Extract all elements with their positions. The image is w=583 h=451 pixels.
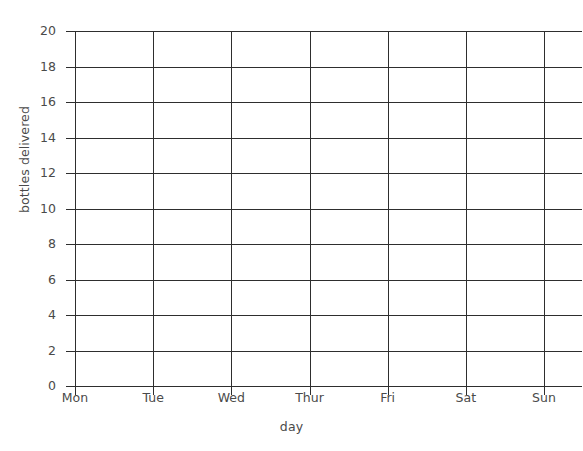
gridline-vertical <box>466 31 467 395</box>
gridline-horizontal <box>66 209 582 210</box>
gridline-vertical <box>231 31 232 395</box>
gridline-vertical <box>153 31 154 395</box>
gridline-horizontal <box>66 102 582 103</box>
chart-container: bottles delivered day 02468101214161820 … <box>0 0 583 451</box>
gridline-horizontal <box>66 386 582 387</box>
gridline-horizontal <box>66 67 582 68</box>
gridline-horizontal <box>66 138 582 139</box>
gridline-horizontal <box>66 244 582 245</box>
gridline-vertical <box>75 31 76 395</box>
gridline-vertical <box>310 31 311 395</box>
gridline-vertical <box>388 31 389 395</box>
gridline-vertical <box>544 31 545 395</box>
gridline-horizontal <box>66 31 582 32</box>
gridline-horizontal <box>66 315 582 316</box>
gridline-horizontal <box>66 173 582 174</box>
gridline-horizontal <box>66 280 582 281</box>
gridline-horizontal <box>66 351 582 352</box>
plot-grid <box>0 0 583 451</box>
